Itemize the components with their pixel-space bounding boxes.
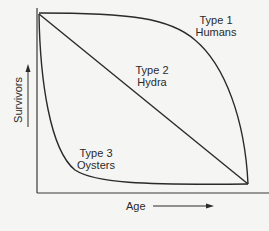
type3-label: Type 3 Oysters bbox=[74, 147, 118, 171]
survivorship-curves-figure: Type 1 Humans Type 2 Hydra Type 3 Oyster… bbox=[0, 0, 269, 231]
y-axis-arrowhead-icon bbox=[26, 64, 31, 72]
type3-label-type: Type 3 bbox=[74, 147, 118, 159]
x-axis-label: Age bbox=[126, 200, 146, 212]
type3-label-organism: Oysters bbox=[74, 159, 118, 171]
x-axis-arrowhead-icon bbox=[206, 204, 214, 209]
type1-label: Type 1 Humans bbox=[192, 14, 240, 38]
type2-label-type: Type 2 bbox=[130, 64, 174, 76]
type1-label-type: Type 1 bbox=[192, 14, 240, 26]
type2-label-organism: Hydra bbox=[130, 76, 174, 88]
type2-label: Type 2 Hydra bbox=[130, 64, 174, 88]
type1-label-organism: Humans bbox=[192, 26, 240, 38]
type2-curve bbox=[39, 14, 248, 184]
y-axis-label: Survivors bbox=[12, 72, 24, 128]
